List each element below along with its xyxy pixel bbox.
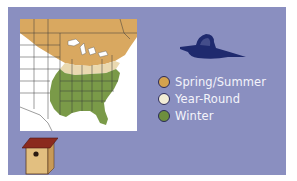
legend-label: Spring/Summer xyxy=(175,75,266,89)
birdhouse-icon xyxy=(22,136,58,176)
legend-item-year-round: Year-Round xyxy=(158,90,266,107)
legend-label: Year-Round xyxy=(175,92,240,106)
year-round-swatch-icon xyxy=(158,93,170,105)
range-map xyxy=(20,19,137,131)
legend-label: Winter xyxy=(175,109,214,123)
duck-silhouette-icon xyxy=(178,30,248,62)
spring-summer-swatch-icon xyxy=(158,76,170,88)
legend-item-winter: Winter xyxy=(158,107,266,124)
winter-swatch-icon xyxy=(158,110,170,122)
us-states-map xyxy=(20,19,137,131)
legend-item-spring-summer: Spring/Summer xyxy=(158,73,266,90)
legend: Spring/Summer Year-Round Winter xyxy=(158,73,266,124)
